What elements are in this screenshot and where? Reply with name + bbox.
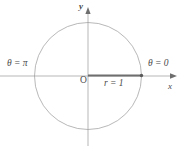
figure-canvas: [0, 0, 183, 151]
label-origin: O: [80, 76, 87, 86]
polar-unit-circle-figure: θ = π θ = 0 r = 1 O x y: [0, 0, 183, 151]
label-axis-x: x: [168, 82, 172, 91]
label-theta-zero: θ = 0: [148, 59, 169, 69]
x-axis-arrowhead: [170, 73, 177, 79]
label-axis-y: y: [79, 2, 83, 11]
radius-endpoint-dot: [140, 74, 143, 77]
label-radius-value: r = 1: [104, 79, 124, 89]
y-axis-arrowhead: [85, 7, 90, 14]
label-theta-pi: θ = π: [7, 59, 28, 69]
